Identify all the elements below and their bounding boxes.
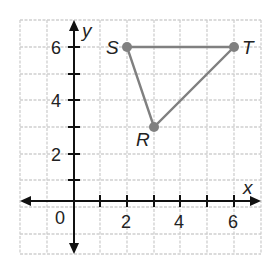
- y-tick-2: 2: [51, 145, 61, 165]
- origin-label: 0: [55, 208, 65, 228]
- coordinate-plane: y x 0 6 4 2 2 4 6 S T R: [0, 0, 275, 268]
- y-tick-6: 6: [51, 38, 61, 58]
- x-tick-4: 4: [174, 212, 184, 232]
- point-r: [149, 122, 159, 132]
- x-tick-2: 2: [121, 212, 131, 232]
- point-r-label: R: [136, 129, 150, 150]
- point-t-label: T: [242, 37, 255, 58]
- point-s: [122, 42, 132, 52]
- point-t: [229, 42, 239, 52]
- x-tick-6: 6: [228, 212, 238, 232]
- y-axis-label: y: [80, 20, 93, 41]
- point-s-label: S: [106, 37, 119, 58]
- axes: [28, 28, 254, 201]
- y-tick-4: 4: [51, 91, 61, 111]
- x-axis-label: x: [242, 177, 254, 198]
